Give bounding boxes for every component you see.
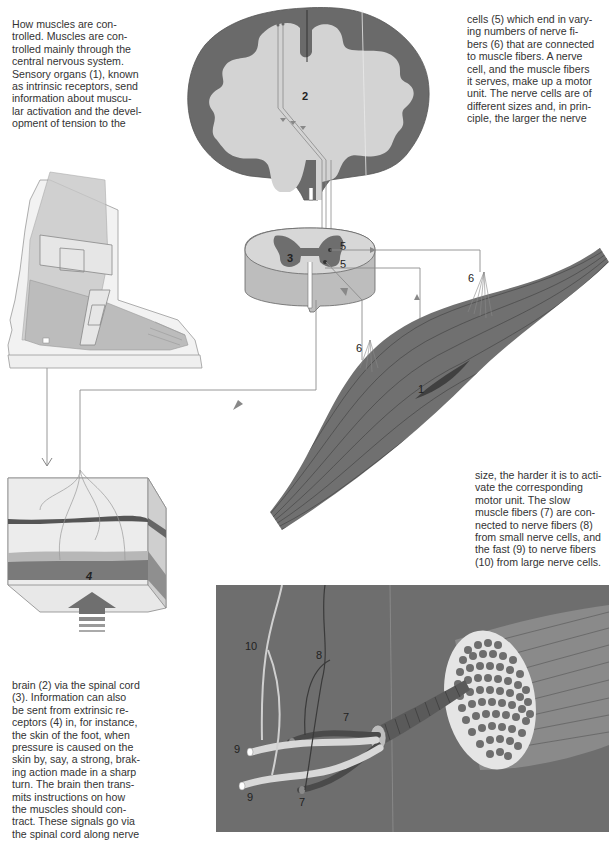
label-nerve-fibers-right: 6	[468, 272, 474, 284]
label-nerve-fibers-left: 6	[356, 342, 362, 354]
label-brain: 2	[302, 90, 308, 102]
muscle-fiber-detail-panel: 10 8 7 7 9 9	[216, 585, 609, 832]
label-slow-fiber-lower: 7	[299, 796, 305, 808]
spinal-cord-cross-section: 3 5 5	[245, 228, 375, 312]
label-fast-fiber-lower: 9	[247, 791, 253, 803]
label-spinal-cord: 3	[287, 252, 293, 264]
label-nerve-fiber-small: 8	[316, 649, 322, 661]
label-fast-fiber-upper: 9	[234, 743, 240, 755]
label-skin-receptor: 4	[85, 570, 92, 582]
ski-boot-illustration	[8, 172, 202, 368]
skin-block-illustration: 4	[8, 470, 166, 632]
label-muscle-receptor: 1	[418, 383, 424, 395]
label-nerve-fiber-large: 10	[245, 640, 257, 652]
brain-cross-section: 2	[188, 8, 429, 263]
muscle-control-diagram: 2 3 5 5	[0, 0, 609, 844]
label-slow-fiber-upper: 7	[343, 711, 349, 723]
